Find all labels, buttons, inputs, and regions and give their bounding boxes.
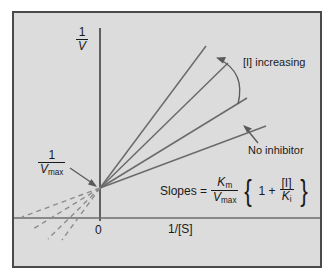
- plot-svg: [0, 0, 335, 280]
- vmax-pointer-arrow: [70, 168, 97, 187]
- data-line-inhibitor-high: [100, 46, 206, 188]
- figure-container: 1 V 1 Vmax 0 1/[S] [I] increasing No inh…: [0, 0, 335, 280]
- data-lines-group: [100, 46, 266, 188]
- vmax-label-subscript: max: [48, 167, 63, 176]
- increasing-arrow: [216, 57, 240, 104]
- extrapolation-line-inhibitor-low: [33, 188, 100, 229]
- equation-brace-open: {: [244, 179, 253, 203]
- equation-vmax-subscript: max: [221, 196, 236, 205]
- vmax-label-denominator: V: [40, 162, 48, 176]
- x-axis-origin-label: 0: [95, 224, 102, 236]
- equation-i-over-ki: [I] Ki: [280, 177, 294, 205]
- extrapolation-lines-group: [22, 188, 100, 240]
- y-axis-label-numerator: 1: [76, 26, 88, 39]
- y-axis-label-denominator: V: [76, 39, 88, 53]
- equation-ki-symbol: K: [282, 189, 290, 203]
- annotation-increasing-inhibitor: [I] increasing: [243, 57, 305, 68]
- annotation-no-inhibitor: No inhibitor: [248, 145, 304, 156]
- data-line-inhibitor-medium: [100, 63, 228, 188]
- equation-inhibitor-conc: [I]: [280, 177, 294, 190]
- equation-one-plus: 1 +: [259, 185, 276, 197]
- slopes-equation: Slopes = Km Vmax { 1 + [I] Ki }: [160, 176, 310, 206]
- equation-brace-close: }: [299, 179, 308, 203]
- x-axis-label: 1/[S]: [168, 223, 193, 235]
- equation-ki-subscript: i: [290, 195, 292, 204]
- equation-km-over-vmax: Km Vmax: [211, 176, 238, 206]
- equation-km-subscript: m: [225, 181, 232, 190]
- equation-lhs: Slopes =: [160, 185, 207, 197]
- extrapolation-line-inhibitor-medium: [48, 188, 100, 239]
- vmax-label-numerator: 1: [38, 149, 65, 162]
- equation-vmax-symbol: V: [213, 190, 221, 204]
- vmax-intercept-label: 1 Vmax: [38, 149, 65, 177]
- y-axis-label: 1 V: [76, 26, 88, 52]
